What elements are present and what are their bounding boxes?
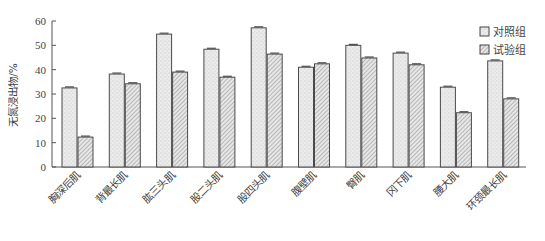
x-category-label: 臀肌 xyxy=(344,168,367,191)
bar-group xyxy=(440,86,471,167)
bar-test xyxy=(362,58,377,167)
bar-test xyxy=(456,113,471,167)
bar-control xyxy=(157,34,172,167)
x-category-label: 冈下肌 xyxy=(384,168,414,198)
bar-test xyxy=(173,72,188,167)
bar-group xyxy=(488,60,519,167)
bar-test xyxy=(78,137,93,167)
bar-control xyxy=(393,53,408,167)
bar-control xyxy=(346,45,361,167)
bar-control xyxy=(251,28,266,167)
bar-test xyxy=(125,84,140,167)
y-tick-label: 10 xyxy=(35,137,47,149)
x-category-label: 肱三头肌 xyxy=(140,168,177,205)
bar-control xyxy=(109,74,124,167)
bar-test xyxy=(504,99,519,167)
legend-swatch-hatch-icon xyxy=(480,45,489,54)
y-tick-label: 40 xyxy=(35,64,47,76)
y-axis-label: 无氮浸出物/% xyxy=(7,63,19,127)
x-category-label: 股二头肌 xyxy=(188,168,225,205)
bar-group xyxy=(251,27,282,167)
y-tick-label: 20 xyxy=(35,112,47,124)
bar-control xyxy=(62,88,77,167)
y-tick-label: 0 xyxy=(41,161,47,173)
x-category-label: 背最长肌 xyxy=(93,168,130,205)
bar-control xyxy=(440,87,455,167)
legend-label-control: 对照组 xyxy=(493,25,526,39)
legend: 对照组 试验组 xyxy=(480,25,526,57)
bar-group xyxy=(204,48,235,167)
bar-group xyxy=(299,63,330,167)
bar-group xyxy=(393,52,424,167)
bar-control xyxy=(299,67,314,167)
x-category-label: 股四头肌 xyxy=(235,168,272,205)
legend-item-control: 对照组 xyxy=(480,25,526,39)
legend-swatch-stipple-icon xyxy=(480,27,489,36)
bar-control xyxy=(488,61,503,167)
y-tick-label: 50 xyxy=(35,39,47,51)
bar-group xyxy=(346,44,377,167)
y-tick-label: 30 xyxy=(35,88,47,100)
x-category-label: 腹壁肌 xyxy=(289,168,319,198)
bar-group xyxy=(109,73,140,167)
bar-test xyxy=(409,65,424,167)
bar-control xyxy=(204,49,219,167)
x-category-label: 腰大肌 xyxy=(431,168,461,198)
bar-group xyxy=(62,87,93,167)
bar-test xyxy=(267,54,282,167)
x-category-label: 环颈最长肌 xyxy=(464,168,509,213)
bar-group xyxy=(157,33,188,167)
legend-item-test: 试验组 xyxy=(480,43,526,57)
x-axis-labels: 胸深后肌背最长肌肱三头肌股二头肌股四头肌腹壁肌臀肌冈下肌腰大肌环颈最长肌 xyxy=(46,168,509,213)
legend-label-test: 试验组 xyxy=(493,43,526,57)
bars-layer xyxy=(62,27,519,167)
y-tick-label: 60 xyxy=(35,15,47,27)
bar-test xyxy=(315,64,330,167)
bar-chart: 0102030405060 胸深后肌背最长肌肱三头肌股二头肌股四头肌腹壁肌臀肌冈… xyxy=(0,0,545,241)
x-category-label: 胸深后肌 xyxy=(46,168,83,205)
bar-test xyxy=(220,77,235,167)
